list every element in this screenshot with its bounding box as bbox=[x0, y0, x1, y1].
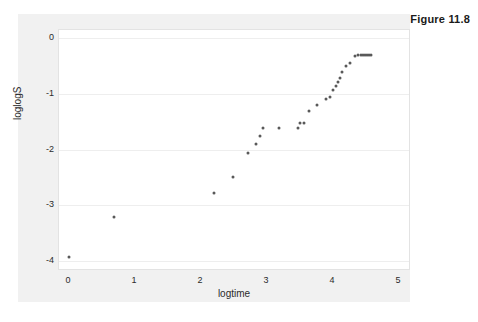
data-point bbox=[334, 85, 337, 88]
data-point bbox=[316, 104, 319, 107]
data-point bbox=[213, 191, 216, 194]
y-tick-label: -4 bbox=[46, 255, 54, 265]
data-point bbox=[328, 96, 331, 99]
x-tick-label: 2 bbox=[197, 275, 202, 285]
x-tick-label: 3 bbox=[264, 275, 269, 285]
data-point bbox=[231, 175, 234, 178]
y-tick-label: 0 bbox=[49, 32, 54, 42]
data-point bbox=[344, 64, 347, 67]
gridline-y bbox=[59, 205, 409, 206]
data-point bbox=[297, 127, 300, 130]
gridline-y bbox=[59, 261, 409, 262]
y-tick-label: -1 bbox=[46, 88, 54, 98]
y-axis-ticks: 0-1-2-3-4 bbox=[30, 29, 54, 270]
data-point bbox=[308, 110, 311, 113]
data-point bbox=[332, 89, 335, 92]
y-tick-label: -3 bbox=[46, 199, 54, 209]
y-tick-label: -2 bbox=[46, 144, 54, 154]
figure-caption: Figure 11.8 bbox=[410, 13, 470, 25]
data-point bbox=[277, 127, 280, 130]
x-axis-ticks: 012345 bbox=[58, 275, 410, 289]
x-axis-label: logtime bbox=[58, 288, 410, 299]
data-point bbox=[369, 54, 372, 57]
data-point bbox=[336, 81, 339, 84]
gridline-y bbox=[59, 38, 409, 39]
data-point bbox=[67, 255, 70, 258]
data-point bbox=[246, 151, 249, 154]
x-tick-label: 5 bbox=[396, 275, 401, 285]
data-point bbox=[303, 121, 306, 124]
x-tick-label: 1 bbox=[131, 275, 136, 285]
x-tick-label: 4 bbox=[330, 275, 335, 285]
y-axis-label: loglogS bbox=[12, 87, 23, 120]
gridline-y bbox=[59, 94, 409, 95]
plot-area bbox=[58, 29, 410, 270]
data-point bbox=[258, 134, 261, 137]
data-point bbox=[254, 142, 257, 145]
data-point bbox=[348, 61, 351, 64]
data-point bbox=[339, 77, 342, 80]
x-tick-label: 0 bbox=[65, 275, 70, 285]
gridline-y bbox=[59, 150, 409, 151]
data-point bbox=[299, 121, 302, 124]
data-point bbox=[262, 127, 265, 130]
data-point bbox=[113, 216, 116, 219]
figure-container: Figure 11.8 0-1-2-3-4 012345 logtime log… bbox=[0, 0, 478, 322]
data-point bbox=[324, 97, 327, 100]
data-point bbox=[341, 71, 344, 74]
